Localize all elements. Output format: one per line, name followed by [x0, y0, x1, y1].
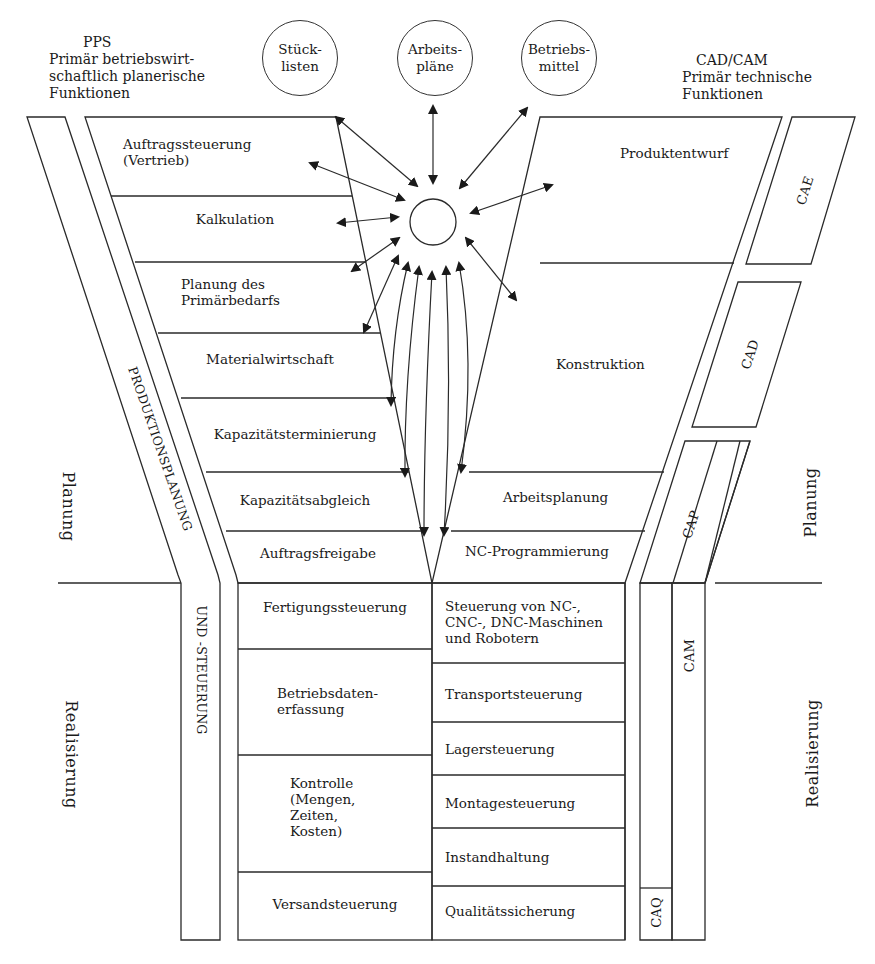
- database-arbeitsplaene: Arbeits- pläne: [397, 20, 473, 96]
- database-betriebsmittel: Betriebs- mittel: [521, 20, 597, 96]
- left-row-kapazitaetsterminierung: Kapazitätsterminierung: [180, 426, 410, 442]
- left-row-auftragsfreigabe: Auftragsfreigabe: [218, 545, 418, 561]
- lower-left-table: [238, 583, 432, 940]
- phase-left-realisierung: Realisierung: [62, 700, 81, 810]
- right-row-produktentwurf: Produktentwurf: [620, 145, 728, 161]
- lower-right-transportsteuerung: Transportsteuerung: [445, 686, 582, 702]
- database-stuecklisten: Stück- listen: [262, 20, 338, 96]
- caq-cam-strip: [640, 583, 672, 940]
- left-row-materialwirtschaft: Materialwirtschaft: [160, 351, 380, 367]
- left-row-auftragssteuerung: Auftragssteuerung (Vertrieb): [123, 136, 251, 168]
- lower-left-fertigungssteuerung: Fertigungssteuerung: [238, 599, 432, 615]
- band-und-steuerung: UND -STEUERUNG: [194, 606, 209, 726]
- lower-right-instandhaltung: Instandhaltung: [445, 849, 549, 865]
- right-row-nc-programmierung: NC-Programmierung: [465, 543, 609, 559]
- band-caq: CAQ: [649, 888, 664, 938]
- right-row-arbeitsplanung: Arbeitsplanung: [503, 489, 608, 505]
- band-cam: CAM: [682, 631, 697, 681]
- pps-title: PPS: [83, 34, 111, 51]
- central-database: [410, 199, 456, 245]
- data-flow-arrows: [310, 106, 552, 535]
- right-row-konstruktion: Konstruktion: [556, 356, 645, 372]
- right-funnel: [432, 117, 782, 583]
- lower-left-kontrolle: Kontrolle (Mengen, Zeiten, Kosten): [290, 775, 355, 839]
- lower-right-nc-steuerung: Steuerung von NC-, CNC-, DNC-Maschinen u…: [445, 598, 603, 646]
- lower-right-qualitaetssicherung: Qualitätssicherung: [445, 903, 575, 919]
- left-row-kalkulation: Kalkulation: [130, 211, 340, 227]
- left-row-primaerbedarf: Planung des Primärbedarfs: [181, 276, 280, 308]
- phase-right-planung: Planung: [801, 463, 820, 543]
- lower-right-lagersteuerung: Lagersteuerung: [445, 741, 555, 757]
- pps-subtitle: Primär betriebswirt- schaftlich planeris…: [49, 51, 205, 102]
- lower-left-versandsteuerung: Versandsteuerung: [238, 896, 432, 912]
- lower-left-betriebsdatenerfassung: Betriebsdaten- erfassung: [277, 685, 378, 717]
- left-funnel: [85, 117, 432, 583]
- left-row-kapazitaetsabgleich: Kapazitätsabgleich: [200, 492, 410, 508]
- phase-right-realisierung: Realisierung: [803, 699, 822, 809]
- cadcam-subtitle: Primär technische Funktionen: [682, 69, 812, 103]
- phase-left-planung: Planung: [59, 467, 78, 547]
- lower-right-montagesteuerung: Montagesteuerung: [445, 795, 575, 811]
- cadcam-title: CAD/CAM: [696, 52, 768, 69]
